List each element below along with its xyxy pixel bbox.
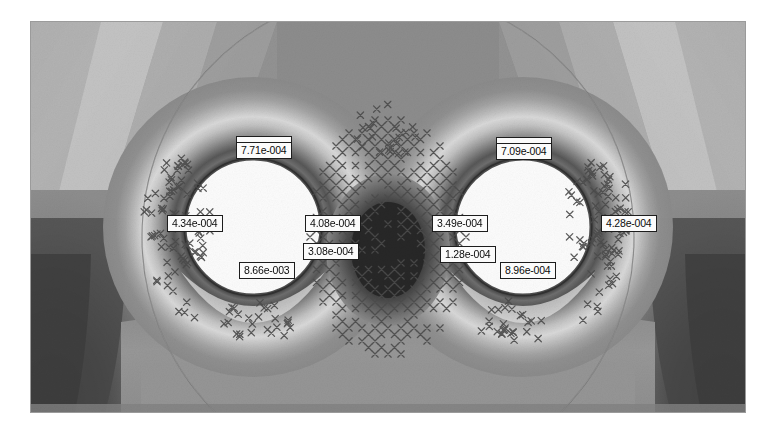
contour-value-text: 7.09e-004 [501, 145, 547, 157]
contour-value-text: 3.49e-004 [437, 217, 483, 229]
contour-value-text: 4.08e-004 [310, 217, 356, 229]
label-leader-tab [496, 137, 552, 143]
figure-page: 7.71e-0044.34e-0048.66e-0034.08e-0043.08… [0, 0, 776, 441]
contour-label-right-invert-west: 1.28e-004 [440, 246, 496, 263]
contour-plot-frame: 7.71e-0044.34e-0048.66e-0034.08e-0043.08… [31, 22, 745, 412]
contour-value-text: 3.08e-004 [308, 245, 354, 257]
contour-label-left-crown: 7.71e-004 [236, 142, 292, 159]
contour-label-left-invert: 8.66e-003 [239, 262, 295, 279]
contour-label-pillar-upper: 4.08e-004 [305, 215, 361, 232]
contour-value-text: 8.66e-003 [244, 264, 290, 276]
contour-label-right-invert: 8.96e-004 [500, 262, 556, 279]
label-leader-tab [236, 136, 292, 142]
contour-value-text: 1.28e-004 [445, 248, 491, 260]
contour-label-right-springline-west: 3.49e-004 [432, 215, 488, 232]
contour-label-right-springline-east: 4.28e-004 [601, 215, 657, 232]
contour-label-right-crown: 7.09e-004 [496, 143, 552, 160]
contour-value-text: 4.34e-004 [172, 217, 218, 229]
contour-label-left-springline-west: 4.34e-004 [167, 215, 223, 232]
contour-value-text: 7.71e-004 [241, 144, 287, 156]
contour-label-pillar-lower: 3.08e-004 [303, 243, 359, 260]
contour-value-text: 4.28e-004 [606, 217, 652, 229]
contour-value-text: 8.96e-004 [505, 264, 551, 276]
